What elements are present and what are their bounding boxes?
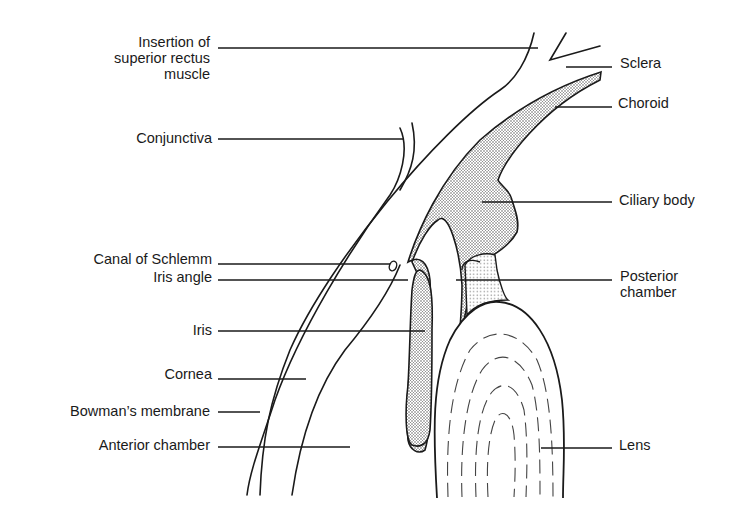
label-iris: Iris bbox=[20, 322, 212, 338]
iris-shape bbox=[406, 270, 432, 446]
conjunctiva-arc bbox=[247, 128, 404, 495]
lens-shape bbox=[435, 302, 564, 498]
label-bowmans-membrane: Bowman’s membrane bbox=[0, 403, 210, 419]
label-choroid: Choroid bbox=[618, 95, 669, 111]
sclera-arrow bbox=[550, 33, 600, 60]
label-sclera: Sclera bbox=[620, 55, 661, 71]
label-canal-of-schlemm: Canal of Schlemm bbox=[20, 251, 212, 267]
label-conjunctiva: Conjunctiva bbox=[40, 130, 212, 146]
label-cornea: Cornea bbox=[20, 366, 212, 382]
label-ciliary-body: Ciliary body bbox=[619, 192, 695, 208]
label-insertion-superior-rectus: Insertion of superior rectus muscle bbox=[40, 34, 210, 82]
canal-of-schlemm bbox=[388, 260, 398, 272]
label-iris-angle: Iris angle bbox=[20, 269, 212, 285]
label-anterior-chamber: Anterior chamber bbox=[0, 437, 210, 453]
label-lens: Lens bbox=[619, 437, 650, 453]
label-posterior-chamber: Posterior chamber bbox=[620, 268, 678, 300]
cornea-inner-curve bbox=[292, 265, 400, 495]
